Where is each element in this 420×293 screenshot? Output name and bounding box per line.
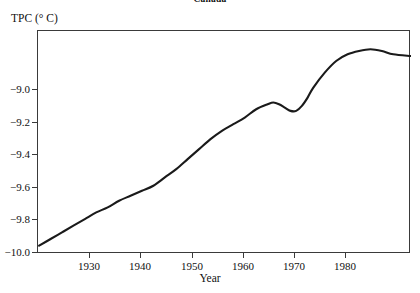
x-tick-mark — [243, 253, 244, 258]
y-tick-mark — [32, 187, 37, 188]
chart-figure: Canada TPC (° C) −9.0−9.2−9.4−9.6−9.8−10… — [0, 0, 420, 293]
y-tick-label: −10.0 — [5, 247, 30, 258]
y-tick-mark — [32, 154, 37, 155]
x-tick-mark — [294, 253, 295, 258]
y-tick-label: −9.2 — [10, 117, 30, 128]
y-tick-mark — [32, 122, 37, 123]
x-tick-mark — [192, 253, 193, 258]
x-tick-mark — [140, 253, 141, 258]
y-tick-label: −9.8 — [10, 214, 30, 225]
y-tick-label: −9.6 — [10, 182, 30, 193]
y-tick-mark — [32, 252, 37, 253]
x-tick-mark — [345, 253, 346, 258]
y-tick-mark — [32, 89, 37, 90]
y-axis-title: TPC (° C) — [11, 11, 58, 25]
y-tick-mark — [32, 219, 37, 220]
x-tick-mark — [89, 253, 90, 258]
y-tick-label: −9.4 — [10, 149, 30, 160]
series-line-tpc — [39, 49, 410, 245]
x-axis-title: Year — [0, 271, 420, 285]
y-tick-label: −9.0 — [10, 84, 30, 95]
line-chart-svg — [38, 31, 411, 254]
chart-title: Canada — [0, 0, 420, 5]
plot-area — [37, 30, 410, 253]
